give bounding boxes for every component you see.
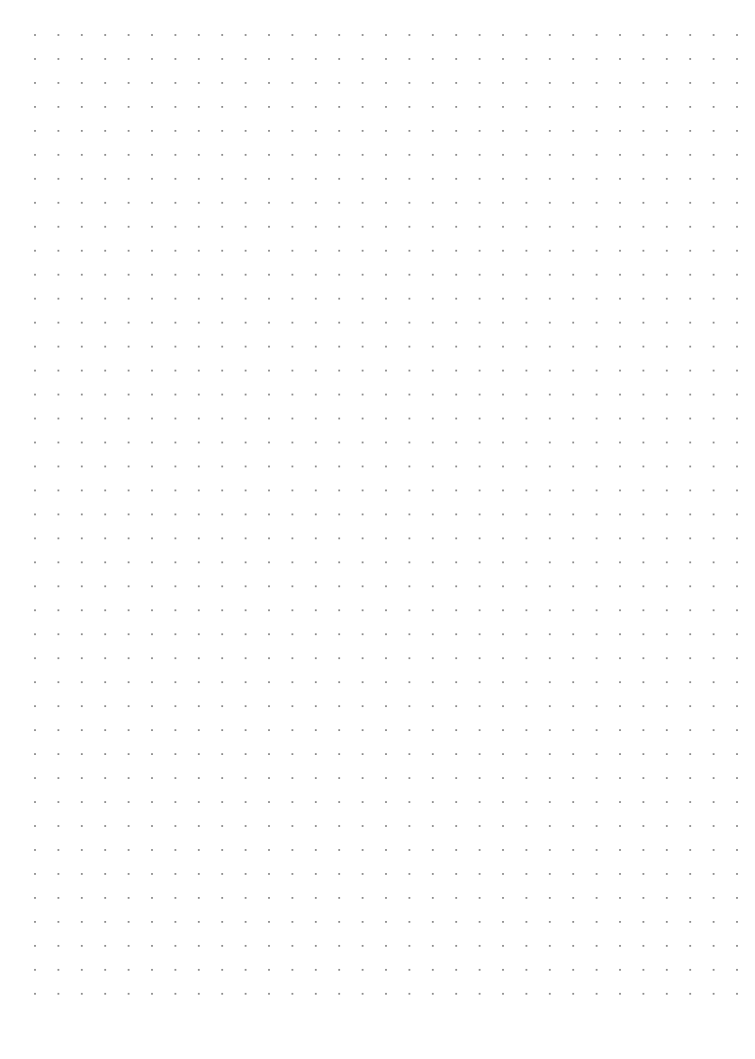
- grid-dot: [315, 418, 317, 420]
- grid-dot: [409, 657, 411, 659]
- grid-dot: [338, 202, 340, 204]
- grid-dot: [479, 585, 481, 587]
- grid-dot: [221, 34, 223, 36]
- grid-dot: [713, 633, 715, 635]
- grid-dot: [596, 58, 598, 60]
- grid-dot: [479, 154, 481, 156]
- grid-dot: [526, 514, 528, 516]
- grid-dot: [175, 202, 177, 204]
- grid-dot: [689, 298, 691, 300]
- grid-dot: [502, 250, 504, 252]
- grid-dot: [175, 106, 177, 108]
- grid-dot: [432, 322, 434, 324]
- grid-dot: [104, 178, 106, 180]
- grid-dot: [455, 202, 457, 204]
- grid-dot: [268, 657, 270, 659]
- grid-dot: [268, 274, 270, 276]
- grid-dot: [619, 609, 621, 611]
- grid-dot: [385, 777, 387, 779]
- grid-dot: [268, 849, 270, 851]
- grid-dot: [81, 394, 83, 396]
- grid-dot: [549, 969, 551, 971]
- grid-dot: [643, 274, 645, 276]
- grid-dot: [572, 897, 574, 899]
- grid-dot: [338, 490, 340, 492]
- grid-dot: [81, 609, 83, 611]
- grid-dot: [572, 537, 574, 539]
- grid-dot: [245, 82, 247, 84]
- grid-dot: [221, 82, 223, 84]
- grid-dot: [104, 322, 106, 324]
- grid-dot: [268, 681, 270, 683]
- grid-dot: [432, 250, 434, 252]
- grid-dot: [362, 466, 364, 468]
- grid-dot: [292, 274, 294, 276]
- grid-dot: [643, 969, 645, 971]
- grid-dot: [221, 442, 223, 444]
- grid-dot: [292, 130, 294, 132]
- grid-dot: [292, 490, 294, 492]
- grid-dot: [175, 633, 177, 635]
- grid-dot: [432, 226, 434, 228]
- grid-dot: [81, 82, 83, 84]
- grid-dot: [432, 346, 434, 348]
- grid-dot: [362, 442, 364, 444]
- grid-dot: [151, 945, 153, 947]
- grid-dot: [432, 34, 434, 36]
- grid-dot: [713, 514, 715, 516]
- grid-dot: [643, 130, 645, 132]
- grid-dot: [526, 969, 528, 971]
- grid-dot: [572, 945, 574, 947]
- grid-dot: [268, 777, 270, 779]
- grid-dot: [549, 537, 551, 539]
- grid-dot: [268, 585, 270, 587]
- grid-dot: [526, 298, 528, 300]
- grid-dot: [549, 801, 551, 803]
- grid-dot: [479, 322, 481, 324]
- grid-dot: [432, 993, 434, 995]
- grid-dot: [549, 394, 551, 396]
- grid-dot: [245, 705, 247, 707]
- grid-dot: [175, 466, 177, 468]
- grid-dot: [666, 154, 668, 156]
- grid-dot: [619, 298, 621, 300]
- grid-dot: [151, 729, 153, 731]
- grid-dot: [596, 106, 598, 108]
- grid-dot: [362, 657, 364, 659]
- grid-dot: [502, 130, 504, 132]
- grid-dot: [338, 442, 340, 444]
- grid-dot: [198, 58, 200, 60]
- grid-dot: [385, 873, 387, 875]
- grid-dot: [58, 370, 60, 372]
- grid-dot: [385, 657, 387, 659]
- grid-dot: [104, 585, 106, 587]
- grid-dot: [619, 825, 621, 827]
- grid-dot: [315, 561, 317, 563]
- grid-dot: [455, 585, 457, 587]
- grid-dot: [479, 825, 481, 827]
- grid-dot: [81, 993, 83, 995]
- grid-dot: [151, 657, 153, 659]
- grid-dot: [245, 154, 247, 156]
- grid-dot: [502, 298, 504, 300]
- grid-dot: [34, 921, 36, 923]
- grid-dot: [666, 370, 668, 372]
- grid-dot: [526, 681, 528, 683]
- grid-dot: [362, 681, 364, 683]
- grid-dot: [81, 561, 83, 563]
- grid-dot: [409, 82, 411, 84]
- grid-dot: [666, 921, 668, 923]
- grid-dot: [432, 154, 434, 156]
- grid-dot: [104, 969, 106, 971]
- grid-dot: [175, 298, 177, 300]
- grid-dot: [666, 130, 668, 132]
- grid-dot: [572, 681, 574, 683]
- grid-dot: [713, 993, 715, 995]
- grid-dot: [221, 561, 223, 563]
- grid-dot: [432, 849, 434, 851]
- grid-dot: [572, 609, 574, 611]
- grid-dot: [245, 657, 247, 659]
- grid-dot: [736, 106, 738, 108]
- grid-dot: [198, 561, 200, 563]
- grid-dot: [198, 394, 200, 396]
